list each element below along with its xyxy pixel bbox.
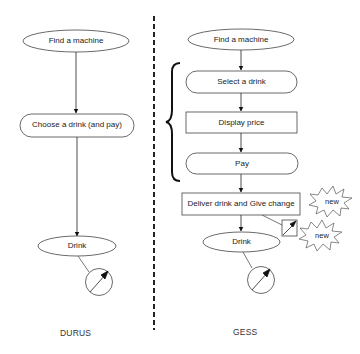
right-deliver-label: Deliver drink and Give change bbox=[182, 200, 300, 208]
right-select-drink-label: Select a drink bbox=[186, 78, 297, 86]
gauge-icon bbox=[86, 269, 113, 296]
gauge-icon bbox=[248, 267, 275, 294]
left-drink-label: Drink bbox=[38, 242, 116, 250]
flow-diagram bbox=[0, 0, 360, 354]
right-display-price-label: Display price bbox=[186, 119, 297, 127]
left-find-machine-label: Find a machine bbox=[23, 37, 129, 45]
right-find-machine-label: Find a machine bbox=[188, 36, 294, 44]
new-badge-1: new bbox=[318, 198, 346, 206]
grouping-brace bbox=[166, 63, 180, 181]
square-gauge-icon bbox=[282, 220, 297, 236]
left-choose-drink-label: Choose a drink (and pay) bbox=[20, 121, 134, 129]
right-pay-label: Pay bbox=[186, 160, 298, 168]
durus-title: DURUS bbox=[60, 328, 91, 338]
durus-flow bbox=[20, 30, 134, 296]
gess-title: GESS bbox=[233, 327, 257, 337]
right-drink-label: Drink bbox=[203, 238, 280, 246]
new-badge-2: new bbox=[308, 232, 336, 240]
